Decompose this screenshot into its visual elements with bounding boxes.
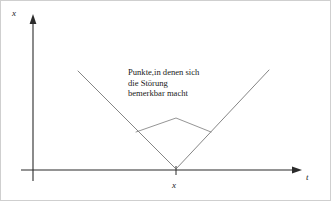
annotation-line-3: bemerkbar macht bbox=[128, 88, 234, 99]
horizontal-axis-arrowhead bbox=[292, 167, 302, 174]
diagram-canvas bbox=[1, 1, 331, 201]
inner-wavefront-line bbox=[136, 118, 211, 132]
annotation-line-2: die Störung bbox=[128, 78, 234, 89]
annotation-line-1: Punkte,in denen sich bbox=[128, 67, 234, 78]
origin-tick-label: x bbox=[172, 181, 176, 190]
diagram-figure: x t x Punkte,in denen sich die Störung b… bbox=[0, 0, 331, 201]
vertical-axis-label: x bbox=[12, 9, 16, 18]
vertical-axis-arrowhead bbox=[30, 14, 37, 24]
horizontal-axis-label: t bbox=[306, 173, 309, 182]
annotation-text: Punkte,in denen sich die Störung bemerkb… bbox=[128, 67, 234, 99]
